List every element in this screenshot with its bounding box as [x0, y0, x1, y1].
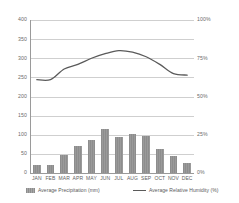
bar-may [88, 140, 96, 173]
y-axis-left-tick: 400 [18, 17, 27, 22]
x-axis-labels: JANFEBMARAPRMAYJUNJULAUGSEPOCTNOVDEC [30, 175, 194, 185]
x-axis-tick-dec: DEC [180, 175, 194, 181]
x-axis-tick-may: MAY [85, 175, 99, 181]
bar-dec [183, 163, 191, 173]
legend-label-precipitation: Average Precipitation (mm) [38, 187, 100, 193]
legend-item-humidity: Average Relative Humidity (%) [133, 187, 218, 193]
bar-jan [33, 165, 41, 173]
precipitation-bars [30, 20, 194, 173]
line-swatch-icon [133, 190, 146, 191]
legend-label-humidity: Average Relative Humidity (%) [149, 187, 218, 193]
y-axis-right-labels: 0%25%50%75%100% [197, 0, 237, 203]
y-axis-right-tick: 100% [197, 17, 211, 22]
x-axis-tick-apr: APR [71, 175, 85, 181]
x-axis-tick-sep: SEP [139, 175, 153, 181]
x-axis-line [30, 173, 194, 174]
bar-aug [129, 134, 137, 173]
y-axis-left-tick: 200 [18, 94, 27, 99]
y-axis-left-tick: 300 [18, 56, 27, 61]
bar-nov [170, 156, 178, 173]
bar-apr [74, 146, 82, 173]
y-axis-left-tick: 100 [18, 132, 27, 137]
y-axis-left-tick: 0 [24, 170, 27, 175]
x-axis-tick-jan: JAN [30, 175, 44, 181]
climate-chart: 050100150200250300350400 0%25%50%75%100%… [0, 0, 239, 203]
y-axis-right-tick: 25% [197, 132, 208, 137]
bar-sep [142, 136, 150, 173]
y-axis-right-tick: 50% [197, 94, 208, 99]
y-axis-right-tick: 75% [197, 56, 208, 61]
y-axis-left-tick: 150 [18, 113, 27, 118]
chart-legend: Average Precipitation (mm) Average Relat… [26, 187, 226, 197]
bar-jun [101, 129, 109, 173]
legend-item-precipitation: Average Precipitation (mm) [26, 187, 100, 193]
bar-swatch-icon [26, 188, 35, 193]
x-axis-tick-feb: FEB [44, 175, 58, 181]
x-axis-tick-jul: JUL [112, 175, 126, 181]
y-axis-left-tick: 50 [21, 151, 27, 156]
bar-jul [115, 137, 123, 173]
bar-feb [47, 165, 55, 173]
bar-oct [156, 149, 164, 173]
y-axis-right-tick: 0% [197, 170, 205, 175]
y-axis-left-tick: 250 [18, 75, 27, 80]
x-axis-tick-jun: JUN [98, 175, 112, 181]
y-axis-left-tick: 350 [18, 37, 27, 42]
x-axis-tick-mar: MAR [57, 175, 71, 181]
x-axis-tick-aug: AUG [126, 175, 140, 181]
x-axis-tick-nov: NOV [167, 175, 181, 181]
y-axis-left-labels: 050100150200250300350400 [0, 0, 27, 203]
bar-mar [60, 155, 68, 173]
x-axis-tick-oct: OCT [153, 175, 167, 181]
